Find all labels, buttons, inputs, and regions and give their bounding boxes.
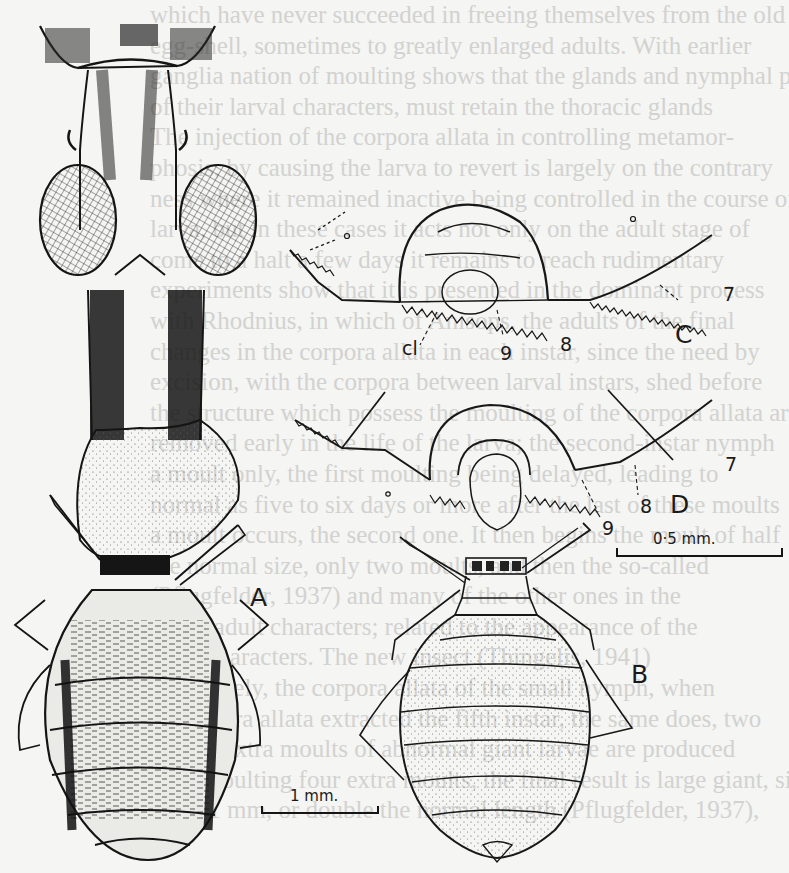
annotation-d-9: 9 <box>602 517 614 539</box>
panel-label-b: B <box>631 660 648 689</box>
panel-label-d: D <box>670 490 689 519</box>
book-page: which have never succeeded in freeing th… <box>0 0 789 873</box>
scale-label-0-5mm: 0·5 mm. <box>653 530 716 548</box>
annotation-c-9: 9 <box>500 342 512 364</box>
scale-bar-1mm <box>262 806 378 813</box>
figure-c-drawing <box>290 205 712 345</box>
panel-label-c: C <box>675 320 692 349</box>
annotation-c-cl: cl <box>402 337 418 359</box>
annotation-d-7: 7 <box>725 453 737 475</box>
annotation-c-8: 8 <box>560 333 572 355</box>
scale-bar-0-5mm <box>617 548 782 556</box>
figure-plate <box>0 0 789 873</box>
figure-b-drawing <box>360 523 632 862</box>
annotation-c-7: 7 <box>723 283 735 305</box>
figure-a-drawing <box>15 24 268 860</box>
annotation-d-8: 8 <box>640 495 652 517</box>
panel-label-a: A <box>250 583 267 612</box>
scale-label-1mm: 1 mm. <box>290 787 338 805</box>
